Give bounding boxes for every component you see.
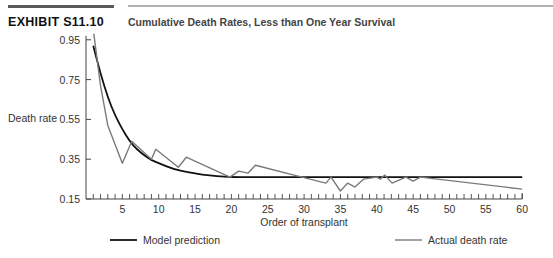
x-tick-label: 30 (298, 203, 310, 215)
legend-model-label: Model prediction (143, 234, 220, 246)
axes: 0.150.350.550.750.9551015202530354045505… (60, 34, 529, 215)
legend: Model prediction Actual death rate (110, 234, 508, 246)
series-lines (93, 30, 522, 191)
x-tick-label: 45 (407, 203, 419, 215)
y-tick-label: 0.95 (60, 34, 81, 46)
y-axis-label: Death rate (8, 112, 57, 124)
x-tick-label: 15 (189, 203, 201, 215)
y-tick-label: 0.15 (60, 193, 81, 205)
x-axis-label: Order of transplant (260, 216, 348, 228)
actual-death-rate-line (93, 30, 522, 191)
x-tick-label: 25 (262, 203, 274, 215)
x-tick-label: 20 (226, 203, 238, 215)
x-tick-label: 55 (480, 203, 492, 215)
chart-canvas: 0.150.350.550.750.9551015202530354045505… (0, 0, 553, 258)
model-prediction-line (93, 46, 522, 177)
y-tick-label: 0.35 (60, 153, 81, 165)
x-tick-label: 40 (371, 203, 383, 215)
x-tick-label: 10 (153, 203, 165, 215)
x-tick-label: 50 (444, 203, 456, 215)
y-tick-label: 0.75 (60, 74, 81, 86)
x-tick-label: 35 (335, 203, 347, 215)
legend-actual-label: Actual death rate (428, 234, 508, 246)
x-tick-label: 60 (516, 203, 528, 215)
y-tick-label: 0.55 (60, 113, 81, 125)
x-tick-label: 5 (119, 203, 125, 215)
